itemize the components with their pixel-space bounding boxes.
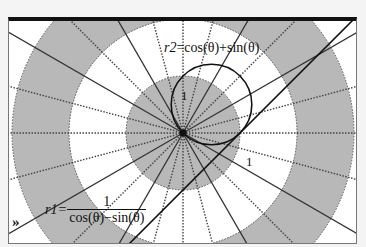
r1-name: r1 [45, 202, 57, 218]
r2-name: r2 [164, 40, 176, 55]
r1-numerator: 1 [101, 194, 112, 209]
polar-plot-frame: r2=cos(θ)+sin(θ) r1 = 1 cos(θ)−sin(θ) 1 … [8, 17, 357, 244]
r1-fraction: 1 cos(θ)−sin(θ) [67, 194, 146, 225]
tick-label-y-1: 1 [181, 88, 188, 104]
r1-equation-label: r1 = 1 cos(θ)−sin(θ) [45, 194, 146, 225]
origin-point [180, 130, 187, 137]
r2-expression: =cos(θ)+sin(θ) [176, 40, 259, 55]
r2-equation-label: r2=cos(θ)+sin(θ) [164, 40, 259, 56]
tick-label-x-1: 1 [246, 154, 253, 170]
r1-denominator: cos(θ)−sin(θ) [67, 209, 146, 225]
expand-chevron-icon[interactable]: » [12, 214, 20, 231]
r1-equals: = [58, 202, 66, 218]
